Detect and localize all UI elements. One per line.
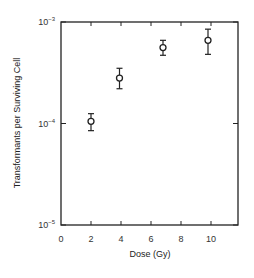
x-axis-ticks: 0246810 [58, 22, 216, 244]
y-tick-label: 10−3 [38, 16, 56, 27]
dose-response-chart: 0246810 10−510−410−3 Dose (Gy) Transform… [0, 0, 254, 278]
y-tick-label: 10−4 [38, 118, 56, 129]
x-tick-label: 4 [118, 234, 123, 244]
x-tick-label: 10 [206, 234, 216, 244]
open-circle-marker [88, 118, 94, 124]
x-tick-label: 6 [148, 234, 153, 244]
x-axis-label: Dose (Gy) [129, 249, 170, 259]
data-point [117, 68, 123, 88]
x-tick-label: 2 [88, 234, 93, 244]
data-series [88, 29, 211, 131]
y-tick-label: 10−5 [38, 219, 56, 230]
data-point [205, 29, 211, 54]
y-axis-label: Transformants per Surviving Cell [12, 58, 22, 189]
x-tick-label: 8 [178, 234, 183, 244]
open-circle-marker [160, 45, 166, 51]
data-point [88, 114, 94, 131]
x-tick-label: 0 [58, 234, 63, 244]
data-point [160, 40, 166, 55]
open-circle-marker [117, 75, 123, 81]
plot-frame [61, 22, 238, 225]
open-circle-marker [205, 37, 211, 43]
